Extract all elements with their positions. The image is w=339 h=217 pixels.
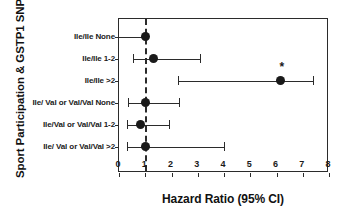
x-axis-tick-label: 7 xyxy=(299,159,304,169)
x-axis-tick-label: 3 xyxy=(194,159,199,169)
x-axis-title: Hazard Ratio (95% CI) xyxy=(118,192,328,206)
x-axis-tick xyxy=(303,173,304,177)
plot-area: * xyxy=(118,18,328,172)
x-axis-tick-label: 8 xyxy=(325,159,330,169)
x-axis-tick xyxy=(329,173,330,177)
category-label: Ile/Ile >2 xyxy=(85,75,115,84)
x-axis-tick xyxy=(224,173,225,177)
point-estimate-marker xyxy=(136,120,145,129)
ci-lower-cap xyxy=(128,98,129,107)
x-axis-tick xyxy=(145,173,146,177)
y-axis-tick xyxy=(115,59,119,60)
ci-lower-cap xyxy=(178,76,179,85)
point-estimate-marker xyxy=(276,76,285,85)
ci-upper-cap xyxy=(179,98,180,107)
x-axis-tick-label: 5 xyxy=(247,159,252,169)
x-axis-tick-label: 0 xyxy=(115,159,120,169)
ci-lower-cap xyxy=(127,120,128,129)
x-axis-tick-label: 4 xyxy=(220,159,225,169)
y-axis-title-container: Sport Participation & GSTP1 SNP xyxy=(0,0,18,180)
x-axis-tick xyxy=(172,173,173,177)
x-axis-tick xyxy=(119,173,120,177)
confidence-interval-line xyxy=(127,125,169,126)
ci-upper-cap xyxy=(200,54,201,63)
x-axis-tick xyxy=(198,173,199,177)
confidence-interval-line xyxy=(178,81,313,82)
x-axis-tick xyxy=(277,173,278,177)
y-axis-tick xyxy=(115,81,119,82)
y-axis-tick xyxy=(115,125,119,126)
category-label: Ile/Ile 1-2 xyxy=(82,53,115,62)
y-axis-tick xyxy=(115,37,119,38)
y-axis-title: Sport Participation & GSTP1 SNP xyxy=(14,0,26,178)
x-axis-tick-label: 1 xyxy=(142,159,147,169)
ci-lower-cap xyxy=(127,142,128,151)
point-estimate-marker xyxy=(141,142,150,151)
ci-upper-cap xyxy=(224,142,225,151)
category-label: Ile/ Val or Val/Val >2 xyxy=(43,141,115,150)
ci-upper-cap xyxy=(313,76,314,85)
x-axis-tick-label: 6 xyxy=(273,159,278,169)
forest-plot-figure: Sport Participation & GSTP1 SNP Ile/Ile … xyxy=(0,0,339,217)
category-label: Ile/Ile None xyxy=(74,31,115,40)
significance-asterisk: * xyxy=(279,61,284,73)
confidence-interval-line xyxy=(128,103,179,104)
x-axis-tick-label: 2 xyxy=(168,159,173,169)
category-label: Ile/ Val or Val/Val None xyxy=(32,97,115,106)
x-axis-tick xyxy=(250,173,251,177)
point-estimate-marker xyxy=(141,32,150,41)
point-estimate-marker xyxy=(141,98,150,107)
point-estimate-marker xyxy=(149,54,158,63)
ci-lower-cap xyxy=(133,54,134,63)
y-axis-tick xyxy=(115,103,119,104)
confidence-interval-line xyxy=(133,59,200,60)
category-label: Ile/Val or Val/Val 1-2 xyxy=(43,119,115,128)
y-axis-tick xyxy=(115,147,119,148)
ci-upper-cap xyxy=(169,120,170,129)
